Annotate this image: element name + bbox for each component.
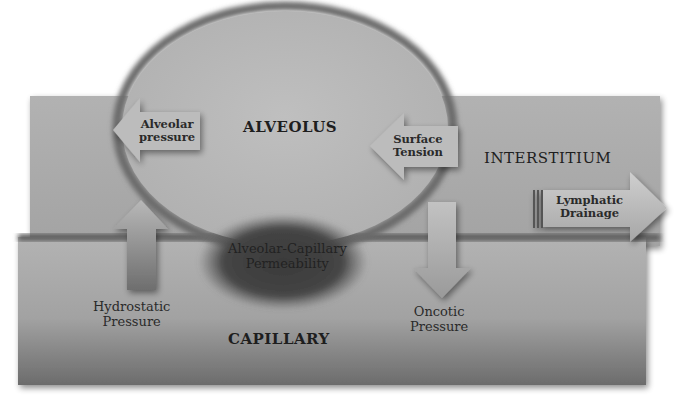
alveolus-label: ALVEOLUS bbox=[243, 119, 337, 136]
interstitium-label: INTERSTITIUM bbox=[484, 150, 611, 167]
alveolar-pressure-label: Alveolar pressure bbox=[139, 118, 195, 144]
surface-tension-label: Surface Tension bbox=[393, 133, 443, 159]
hydrostatic-pressure-label: Hydrostatic Pressure bbox=[93, 300, 170, 330]
capillary-label: CAPILLARY bbox=[228, 331, 330, 348]
lymphatic-drainage-label: Lymphatic Drainage bbox=[556, 194, 623, 220]
diagram-canvas: ALVEOLUS INTERSTITIUM CAPILLARY Alveolar… bbox=[0, 0, 684, 410]
permeability-label: Alveolar-Capillary Permeability bbox=[228, 242, 347, 272]
oncotic-pressure-label: Oncotic Pressure bbox=[410, 305, 468, 335]
